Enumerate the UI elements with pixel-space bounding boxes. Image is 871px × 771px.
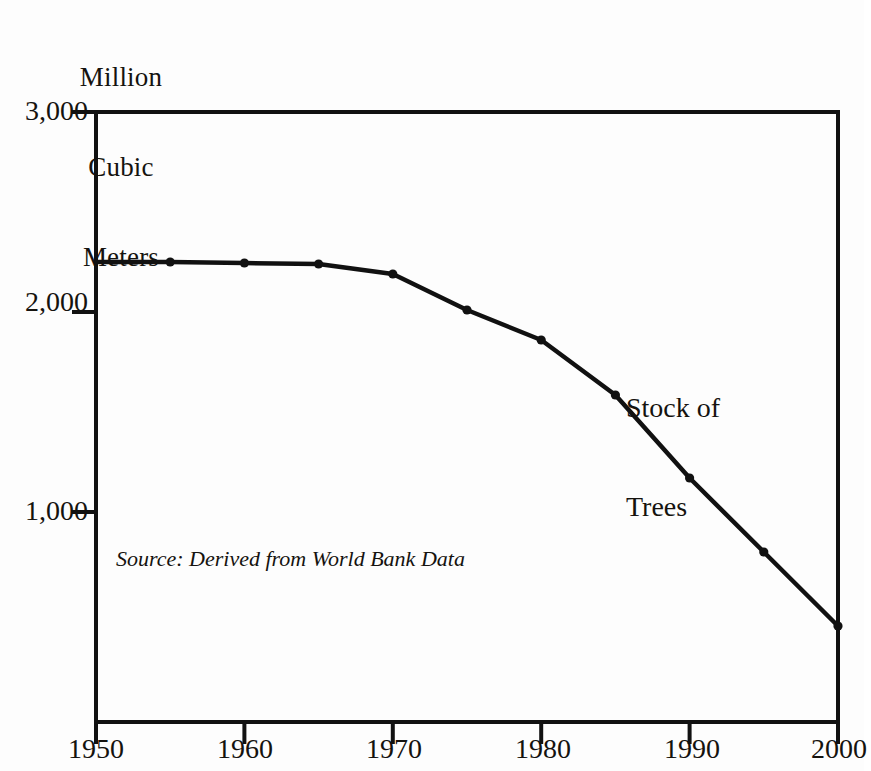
series-marker-1975 [462, 305, 471, 314]
series-marker-1980 [537, 335, 546, 344]
series-marker-1955 [166, 257, 175, 266]
series-marker-1970 [388, 269, 397, 278]
x-axis-tick-marks [96, 722, 838, 744]
y-axis-tick-marks [72, 112, 96, 512]
series-marker-1965 [314, 259, 323, 268]
series-line-stock-of-trees [96, 262, 838, 626]
series-marker-1960 [240, 258, 249, 267]
series-marker-1990 [685, 473, 694, 482]
data-series-stock-of-trees [96, 257, 843, 630]
axis-frame [96, 112, 838, 722]
series-marker-1995 [759, 547, 768, 556]
series-marker-2000 [833, 621, 842, 630]
series-markers [166, 257, 843, 630]
series-marker-1985 [611, 390, 620, 399]
